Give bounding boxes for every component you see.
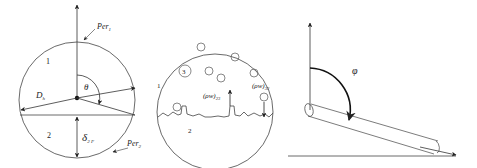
droplet <box>260 93 268 101</box>
pipe-circle-b <box>157 54 273 168</box>
region-3-label: 3 <box>182 68 186 76</box>
flux-32-label: (ρw)32 <box>252 82 270 91</box>
droplet <box>205 67 213 75</box>
flux-23-label: (ρw)23 <box>203 92 221 101</box>
pipe-axis-arrow <box>420 147 456 155</box>
droplet <box>217 74 225 82</box>
region-2-label: 2 <box>47 131 51 140</box>
droplet <box>197 43 205 51</box>
hydraulic-diameter-label: Dh <box>35 90 46 101</box>
droplet <box>250 69 258 77</box>
panel-b-entrainment: 3 1 2 (ρw)23 (ρw)32 <box>157 43 273 168</box>
region-1-label-b: 1 <box>157 82 161 90</box>
theta-label: θ <box>84 82 89 92</box>
region-2-label-b: 2 <box>188 127 192 135</box>
phi-label: φ <box>352 65 358 76</box>
per1-label: Per1 <box>96 22 111 32</box>
region-1-label: 1 <box>46 57 50 66</box>
droplet <box>173 103 181 111</box>
panel-a-cross-section: Per1 Per2 1 2 θ Dh δ2 F <box>19 5 142 158</box>
per2-pointer <box>113 148 128 152</box>
film-thickness-label: δ2 F <box>82 131 95 144</box>
diagram-canvas: Per1 Per2 1 2 θ Dh δ2 F 3 1 2 (ρw)23 (ρw… <box>0 0 477 168</box>
diameter-arrow-left <box>21 98 77 110</box>
per1-pointer <box>84 29 95 40</box>
wavy-interface <box>158 106 273 117</box>
per2-label: Per2 <box>126 139 142 149</box>
panel-c-inclined-pipe: φ <box>288 23 456 156</box>
phi-arc <box>310 68 350 120</box>
radius-to-interface <box>77 98 135 115</box>
